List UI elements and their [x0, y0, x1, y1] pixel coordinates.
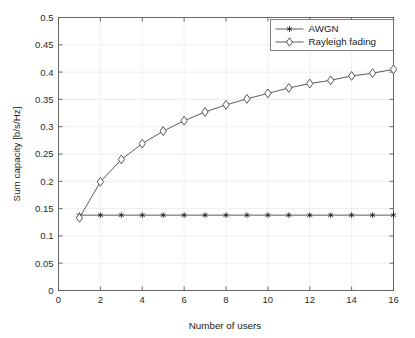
- y-tick-label-9: 0.45: [35, 39, 54, 50]
- y-tick-label-1: 0.05: [35, 258, 54, 269]
- x-axis-title: Number of users: [189, 320, 262, 331]
- y-axis-title: Sum capacity [b/s/Hz]: [11, 106, 22, 201]
- x-tick-label-1: 2: [98, 294, 103, 305]
- y-tick-label-5: 0.25: [35, 148, 54, 159]
- y-tick-label-4: 0.2: [40, 176, 53, 187]
- y-tick-label-3: 0.15: [35, 203, 54, 214]
- chart-figure: 00.050.10.150.20.250.30.350.40.450.5 024…: [0, 0, 415, 338]
- y-tick-label-10: 0.5: [40, 12, 53, 23]
- legend-label: Rayleigh fading: [309, 36, 377, 47]
- y-tick-label-6: 0.3: [40, 121, 53, 132]
- x-tick-label-4: 8: [223, 294, 228, 305]
- x-tick-label-6: 12: [304, 294, 315, 305]
- legend-label: AWGN: [309, 23, 339, 34]
- y-tick-label-2: 0.1: [40, 230, 53, 241]
- x-tick-label-2: 4: [140, 294, 145, 305]
- y-tick-label-8: 0.4: [40, 67, 53, 78]
- x-tick-label-5: 10: [263, 294, 274, 305]
- chart-legend: AWGNRayleigh fading: [271, 20, 394, 51]
- y-tick-label-0: 0: [48, 285, 53, 296]
- y-tick-label-7: 0.35: [35, 94, 54, 105]
- x-tick-label-3: 6: [181, 294, 186, 305]
- line-chart: 00.050.10.150.20.250.30.350.40.450.5 024…: [0, 0, 415, 338]
- x-tick-label-8: 16: [388, 294, 399, 305]
- x-tick-label-0: 0: [56, 294, 61, 305]
- x-tick-label-7: 14: [346, 294, 357, 305]
